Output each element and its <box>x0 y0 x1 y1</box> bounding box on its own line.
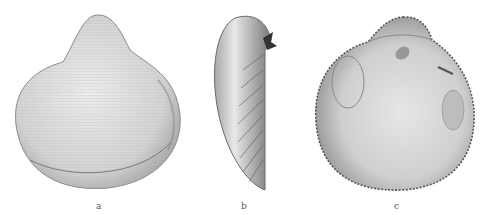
shell-interior-illustration <box>308 12 480 197</box>
shell-figure-b: b <box>205 10 285 195</box>
shell-figure-c: c <box>308 12 480 197</box>
figure-label-b: b <box>241 201 247 211</box>
figure-label-c: c <box>394 201 399 211</box>
figure-label-a: a <box>96 201 101 211</box>
shell-figure-a: a <box>8 10 188 195</box>
shell-lateral-illustration <box>205 10 285 195</box>
shell-exterior-illustration <box>8 10 188 195</box>
